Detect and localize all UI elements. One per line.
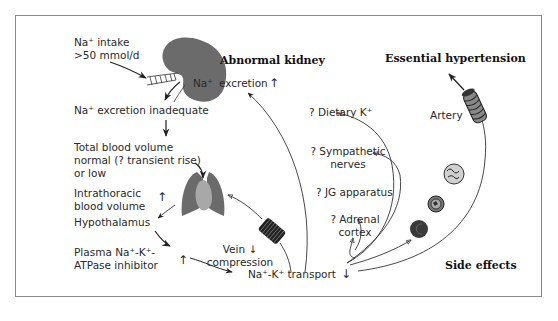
artery-label: Artery (430, 109, 463, 122)
adrenal-cortex-label: ? Adrenal cortex (325, 213, 385, 239)
transport-down-arrow-icon: ↓ (341, 268, 351, 281)
heading-side-effects: Side effects (445, 259, 517, 272)
na-k-transport-label: Na⁺-K⁺ transport (248, 268, 336, 281)
jg-apparatus-label: ? JG apparatus (316, 186, 393, 199)
intrathoracic-blood-volume-label: Intrathoracic blood volume (74, 187, 145, 213)
sympathetic-nerves-label: ? Sympathetic nerves (308, 145, 388, 171)
vein-compression-label: Vein ↓ compression (205, 243, 275, 269)
plasma-up-arrow-icon: ↑ (178, 254, 188, 267)
dietary-k-label: ? Dietary K⁺ (309, 106, 372, 119)
cell-dark-icon (410, 220, 428, 238)
cell-large-icon (444, 164, 464, 184)
excretion-up-arrow-icon: ↑ (269, 77, 279, 90)
na-excretion-inadequate-label: Na⁺ excretion inadequate (74, 104, 209, 117)
artery-icon (461, 87, 488, 125)
vein-down-arrow-icon: ↓ (248, 243, 257, 255)
plasma-inhibitor-label: Plasma Na⁺-K⁺- ATPase inhibitor (74, 246, 158, 272)
cell-medium-icon (428, 196, 444, 212)
renal-vessel-icon (147, 73, 178, 85)
heading-abnormal-kidney: Abnormal kidney (220, 54, 325, 67)
vein-icon (258, 217, 287, 245)
total-blood-volume-label: Total blood volume normal (? transient r… (74, 141, 201, 180)
na-intake-label: Na⁺ intake >50 mmol/d (74, 36, 140, 62)
intrathoracic-up-arrow-icon: ↑ (157, 191, 167, 204)
heading-essential-hypertension: Essential hypertension (385, 52, 526, 65)
excretion-label: excretion (219, 77, 268, 90)
kidney-icon (163, 38, 227, 102)
hypothalamus-label: Hypothalamus (74, 216, 150, 229)
kidney-na-label: Na⁺ (193, 77, 213, 90)
